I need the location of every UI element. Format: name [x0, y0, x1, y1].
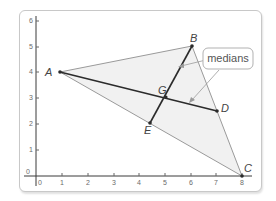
point-b-label: B: [190, 32, 197, 44]
y-ticks: 0 1 2 3 4 5 6: [26, 17, 39, 175]
x-tick-label: 1: [60, 179, 64, 186]
y-tick-label: 6: [29, 17, 33, 24]
point-a-dot: [58, 70, 62, 74]
y-tick-label: 2: [29, 120, 33, 127]
x-tick-label: 2: [86, 179, 90, 186]
point-b-dot: [190, 44, 194, 48]
x-tick-label: 7: [214, 179, 218, 186]
x-tick-label: 0: [38, 179, 42, 186]
point-a-label: A: [44, 66, 52, 78]
x-tick-label: 6: [189, 179, 193, 186]
y-tick-label: 3: [29, 94, 33, 101]
point-g-label: G: [158, 84, 167, 96]
x-tick-label: 4: [137, 179, 141, 186]
x-ticks: 0 1 2 3 4 5 6 7 8: [38, 173, 244, 186]
point-c-dot: [240, 174, 244, 178]
x-tick-label: 8: [240, 179, 244, 186]
x-tick-label: 5: [163, 179, 167, 186]
point-d-dot: [215, 109, 219, 113]
medians-callout-label: medians: [207, 52, 249, 64]
coordinate-plane: 0 1 2 3 4 5 6 0 1 2 3 4 5 6 7 8 median: [0, 0, 276, 201]
y-tick-label: 5: [29, 43, 33, 50]
y-tick-label: 4: [29, 68, 33, 75]
point-d-label: D: [221, 102, 229, 114]
y-tick-label: 0: [26, 168, 30, 175]
point-e-label: E: [144, 124, 152, 136]
point-c-label: C: [244, 162, 252, 174]
y-tick-label: 1: [29, 146, 33, 153]
x-tick-label: 3: [112, 179, 116, 186]
